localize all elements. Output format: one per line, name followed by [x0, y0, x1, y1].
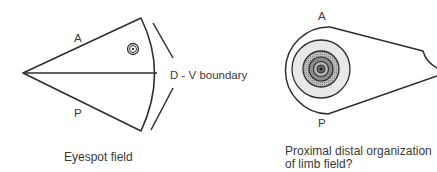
label-anterior-right: A — [318, 10, 326, 22]
eyespot-icon — [128, 44, 139, 55]
caption-limb-field-line1: Proximal distal organization — [285, 144, 432, 158]
eyespot-field-figure: A P D - V boundary Eyespot field — [23, 18, 248, 164]
label-anterior-left: A — [74, 32, 82, 44]
bracket-top — [153, 23, 173, 58]
label-posterior-left: P — [74, 107, 82, 119]
bracket-bottom — [151, 88, 173, 130]
label-posterior-right: P — [318, 117, 326, 129]
diagram-canvas: A P D - V boundary Eyespot field A P Pro… — [0, 0, 437, 172]
caption-eyespot-field: Eyespot field — [64, 150, 133, 164]
concentric-rings — [292, 40, 350, 98]
caption-limb-field-line2: of limb field? — [285, 157, 353, 171]
wing-sector-outline — [23, 18, 155, 131]
limb-field-figure: A P Proximal distal organization of limb… — [285, 10, 437, 171]
d-v-boundary-label: D - V boundary — [170, 69, 248, 81]
